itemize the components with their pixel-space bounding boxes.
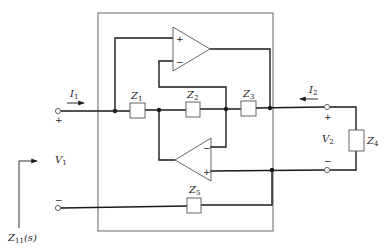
- opamp-top-plus: +: [176, 34, 184, 44]
- circuit-diagram: + − − + Z1 Z2 Z3 Z4 Z5 I1 + V1 − I2 + V2…: [0, 0, 388, 248]
- port2-minus-terminal: [324, 167, 329, 172]
- opamp-top-minus: −: [176, 57, 184, 67]
- z11-arrow-icon: [19, 161, 37, 228]
- z3-label: Z3: [242, 88, 254, 101]
- port1-plus-sign: +: [55, 115, 63, 125]
- network-box: [98, 13, 273, 231]
- v1-label: V1: [55, 154, 67, 167]
- z4-label: Z4: [366, 135, 379, 148]
- impedance-z5: [187, 198, 201, 213]
- port2-minus-sign: −: [324, 156, 332, 166]
- port1-plus-terminal: [55, 108, 60, 113]
- port1-minus-terminal: [55, 205, 60, 210]
- opamp-bottom-plus: +: [203, 167, 211, 177]
- impedance-z1: [130, 103, 145, 118]
- impedance-z2: [186, 102, 200, 117]
- impedance-z3: [241, 101, 256, 116]
- impedance-z4: [349, 130, 364, 151]
- port2-plus-sign: +: [324, 112, 332, 122]
- opamp-bottom-minus: −: [203, 143, 211, 153]
- wires: [61, 38, 356, 208]
- port2-plus-terminal: [324, 104, 329, 109]
- z5-label: Z5: [188, 184, 200, 197]
- z1-label: Z1: [130, 90, 142, 103]
- i1-label: I1: [69, 88, 78, 101]
- z11-label: Z11(s): [7, 232, 37, 245]
- port1-minus-sign: −: [55, 195, 63, 205]
- v2-label: V2: [322, 133, 334, 146]
- z2-label: Z2: [186, 89, 198, 102]
- i2-label: I2: [308, 84, 317, 97]
